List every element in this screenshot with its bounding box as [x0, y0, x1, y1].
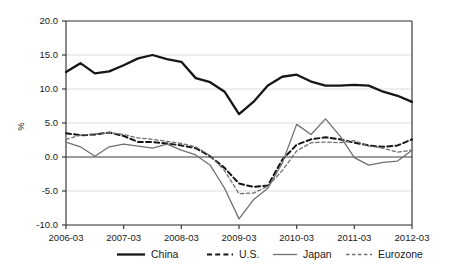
- x-tick-label: 2009-03: [222, 232, 257, 243]
- y-axis: 20.015.010.05.00.0-5.0-10.0%: [15, 15, 66, 230]
- gridlines: [66, 21, 412, 225]
- x-tick-label: 2007-03: [106, 232, 141, 243]
- x-tick-label: 2012-03: [395, 232, 430, 243]
- y-tick-label: 20.0: [40, 15, 59, 26]
- y-tick-label: 15.0: [40, 49, 59, 60]
- legend-label-us: U.S.: [239, 248, 259, 260]
- series-line-us: [66, 133, 412, 187]
- legend-label-china: China: [151, 248, 179, 260]
- y-tick-label: 0.0: [45, 151, 58, 162]
- line-chart: 20.015.010.05.00.0-5.0-10.0%2006-032007-…: [0, 0, 450, 274]
- legend-label-eurozone: Eurozone: [378, 248, 423, 260]
- legend-label-japan: Japan: [303, 248, 332, 260]
- x-tick-label: 2011-03: [337, 232, 371, 243]
- chart-canvas: 20.015.010.05.00.0-5.0-10.0%2006-032007-…: [0, 0, 450, 274]
- series-group: [66, 55, 412, 219]
- series-line-china: [66, 55, 412, 114]
- x-tick-label: 2010-03: [279, 232, 314, 243]
- y-tick-label: -5.0: [42, 185, 58, 196]
- x-axis: 2006-032007-032008-032009-032010-032011-…: [49, 225, 430, 243]
- y-tick-label: -10.0: [36, 219, 58, 230]
- y-tick-label: 5.0: [45, 117, 58, 128]
- legend: ChinaU.S.JapanEurozone: [117, 248, 423, 260]
- y-axis-title: %: [15, 122, 26, 131]
- x-tick-label: 2006-03: [49, 232, 84, 243]
- x-tick-label: 2008-03: [164, 232, 199, 243]
- y-tick-label: 10.0: [40, 83, 59, 94]
